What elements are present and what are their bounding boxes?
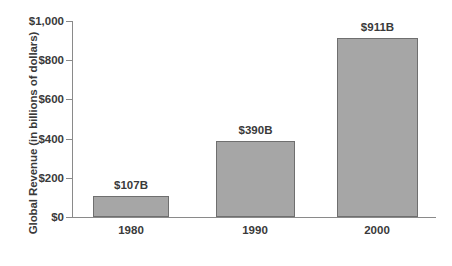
y-tick-label: $1,000 bbox=[2, 15, 64, 27]
bar-value-label: $107B bbox=[73, 179, 189, 191]
y-tick-label: $600 bbox=[2, 93, 64, 105]
x-axis-label: 1980 bbox=[91, 224, 171, 236]
bar-value-label: $390B bbox=[196, 124, 315, 136]
x-axis-line bbox=[72, 217, 436, 218]
bar-value-label: $911B bbox=[317, 21, 438, 33]
x-axis-label: 1990 bbox=[215, 224, 295, 236]
y-tick-label: $800 bbox=[2, 54, 64, 66]
y-tick bbox=[66, 178, 72, 179]
bar-chart: Global Revenue (in billions of dollars) … bbox=[0, 0, 452, 266]
bar bbox=[216, 141, 295, 217]
bar bbox=[93, 196, 169, 217]
y-tick bbox=[66, 139, 72, 140]
y-tick bbox=[66, 99, 72, 100]
x-axis-label: 2000 bbox=[337, 224, 417, 236]
y-tick-label: $0 bbox=[2, 211, 64, 223]
y-tick bbox=[66, 217, 72, 218]
y-tick bbox=[66, 60, 72, 61]
bar bbox=[337, 38, 418, 217]
y-tick bbox=[66, 21, 72, 22]
y-tick-label: $200 bbox=[2, 172, 64, 184]
y-tick-label: $400 bbox=[2, 133, 64, 145]
